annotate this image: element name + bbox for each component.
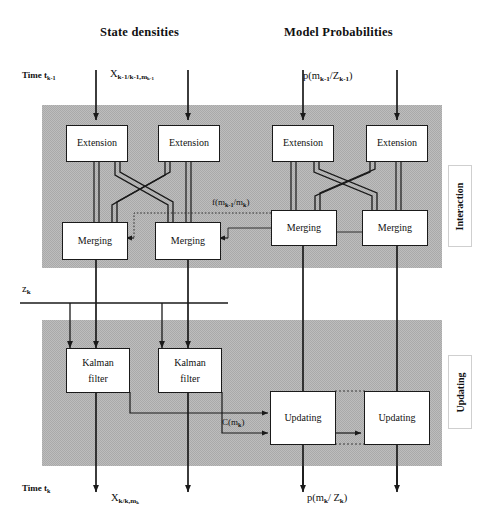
block-merging-2[interactable]: Merging <box>155 222 221 260</box>
diagram-graphics <box>0 0 493 528</box>
kalman-label-line1: Kalman <box>82 355 114 371</box>
diagram-canvas: State densities Model Probabilities Time… <box>0 0 493 528</box>
time-label-top: Time tk-1 <box>22 70 56 81</box>
time-label-top-sub: k-1 <box>47 75 56 81</box>
signal-label-mixing-prob: f(mk-1/mk) <box>212 197 249 208</box>
block-extension-1[interactable]: Extension <box>66 125 128 162</box>
kalman-label-line1: Kalman <box>174 355 206 371</box>
band-label-interaction-text: Interaction <box>455 182 466 230</box>
kalman-label-line2: filter <box>180 371 199 387</box>
signal-label-state-out: Xk/k,mk <box>111 492 139 505</box>
signal-label-likelihood: C(mk) <box>222 417 244 428</box>
column-header-state-densities: State densities <box>100 25 179 40</box>
block-merging-3[interactable]: Merging <box>271 210 337 246</box>
block-kalman-filter-2[interactable]: Kalman filter <box>158 348 222 393</box>
block-merging-1[interactable]: Merging <box>62 222 128 260</box>
block-kalman-filter-1[interactable]: Kalman filter <box>66 348 130 393</box>
signal-label-prob-out: p(mk/ Zk) <box>307 492 347 505</box>
time-label-bottom-prefix: Time t <box>22 483 47 493</box>
block-updating-1[interactable]: Updating <box>270 391 336 445</box>
time-label-top-prefix: Time t <box>22 70 47 80</box>
time-label-bottom: Time tk <box>22 483 51 494</box>
signal-label-prob-in: p(mk-1/Zk-1) <box>303 70 353 83</box>
kalman-label-line2: filter <box>88 371 107 387</box>
block-merging-4[interactable]: Merging <box>362 210 428 246</box>
time-label-bottom-sub: k <box>47 488 50 494</box>
column-header-model-probabilities: Model Probabilities <box>284 25 393 40</box>
band-label-interaction: Interaction <box>448 165 472 247</box>
signal-label-state-in: Xk-1/k-1,mk-1 <box>110 68 154 81</box>
block-extension-2[interactable]: Extension <box>158 125 220 162</box>
block-extension-3[interactable]: Extension <box>272 125 334 162</box>
band-label-updating: Updating <box>448 355 472 429</box>
block-extension-4[interactable]: Extension <box>366 125 428 162</box>
signal-label-measurement: zk <box>22 283 31 296</box>
band-label-updating-text: Updating <box>455 372 466 412</box>
block-updating-2[interactable]: Updating <box>364 391 430 445</box>
